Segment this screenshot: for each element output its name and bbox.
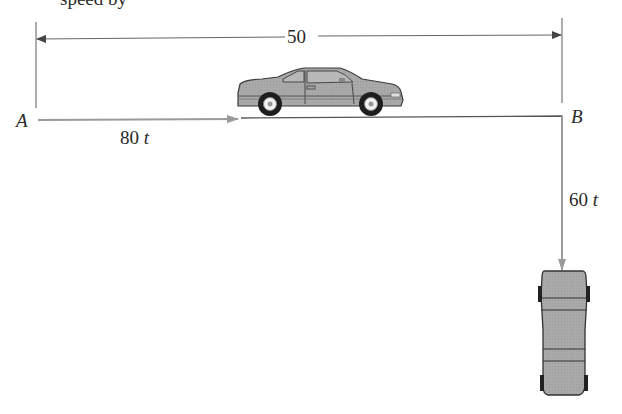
horizontal-variable: t <box>144 127 149 148</box>
horizontal-coefficient: 80 <box>120 127 139 148</box>
dimension-label: 50 <box>287 27 306 46</box>
car-top-view-icon <box>538 271 590 395</box>
road-line <box>241 116 562 126</box>
dimension-arrow-right <box>318 35 561 36</box>
vertical-variable: t <box>593 189 598 210</box>
diagram-canvas <box>0 0 622 414</box>
point-a-label: A <box>16 111 28 130</box>
dimension-arrow-left <box>37 37 285 39</box>
horizontal-motion-arrow <box>38 119 238 120</box>
vertical-motion-label: 60 t <box>569 190 598 209</box>
vertical-coefficient: 60 <box>569 189 588 210</box>
horizontal-motion-label: 80 t <box>120 128 149 147</box>
car-side-view-icon <box>238 68 403 116</box>
point-b-label: B <box>571 107 583 126</box>
